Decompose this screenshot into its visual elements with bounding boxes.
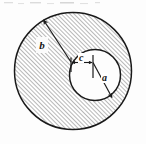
offset-label: c xyxy=(78,53,84,63)
annulus-diagram xyxy=(0,0,146,144)
inner-radius-label: a xyxy=(101,73,108,83)
figure-container: b c a xyxy=(0,0,146,144)
outer-radius-label: b xyxy=(36,37,48,53)
hatched-annulus-region xyxy=(0,0,146,144)
